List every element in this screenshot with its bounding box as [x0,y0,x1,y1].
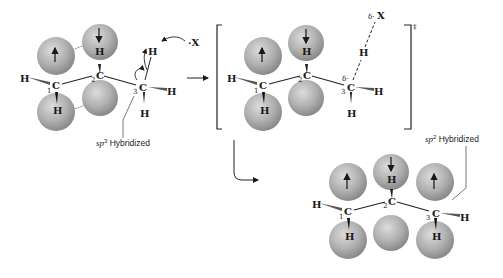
atom-h: H [374,86,383,97]
atom-c2: C [96,70,104,81]
reaction-arrow-icon [234,140,258,180]
transition-state: ‡ H C 1 H C 2 H C 3 δ· H H H δ· X [217,10,417,131]
atom-h: H [432,231,441,242]
carbon-number-1: 1 [47,87,51,95]
reactant-molecule: H C 1 H C 2 H C 3 H H H ·X sp3 Hybridize… [20,24,199,148]
atom-c3: C [432,208,440,219]
atom-c2: C [388,196,396,207]
carbon-number-1: 1 [339,213,343,221]
atom-x: X [377,10,385,21]
mechanism-diagram: H C 1 H C 2 H C 3 H H H ·X sp3 Hybridize… [0,0,503,278]
atom-h-abstracted: H [148,46,157,57]
sp2-hybridized-label: sp2 Hybridized [425,134,479,144]
carbon-number-3: 3 [426,214,430,222]
radical-x: ·X [188,37,199,48]
atom-h: H [53,105,62,116]
bracket-right [404,25,411,129]
atom-c1: C [344,206,352,217]
bracket-left [217,25,222,129]
carbon-number-1: 1 [254,87,258,95]
atom-c1: C [52,80,60,91]
carbon-number-3: 3 [341,88,345,96]
atom-c3: C [139,82,147,93]
atom-h: H [140,108,149,119]
product-molecule: sp2 Hybridized H C 1 H C 2 H C 3 H H [312,134,479,259]
atom-h: H [347,108,356,119]
carbon-number-3: 3 [133,88,137,96]
atom-h: H [260,105,269,116]
orbital-c1-top [37,37,75,75]
double-dagger-symbol: ‡ [413,23,417,31]
atom-h: H [227,73,236,84]
partial-radical-c: δ· [342,75,348,83]
atom-h: H [167,86,176,97]
atom-h: H [345,231,354,242]
atom-h: H [387,174,396,185]
atom-h: H [302,46,311,57]
carbon-number-2: 2 [91,76,95,84]
atom-c2: C [303,70,311,81]
atom-c3: C [347,82,355,93]
partial-radical-x: δ· [368,13,374,21]
atom-h: H [95,46,104,57]
carbon-number-2: 2 [383,202,387,210]
atom-c1: C [259,80,267,91]
atom-h: H [312,199,321,210]
p-orbitals [37,24,118,131]
atom-h: H [460,212,469,223]
sp3-hybridized-label: sp3 Hybridized [96,138,150,148]
atom-h: H [20,73,29,84]
curly-arrows [135,37,185,80]
atom-h-transferring: H [359,47,368,58]
p-orbitals [244,25,324,131]
carbon-number-2: 2 [298,76,302,84]
orbital-c2-bottom [82,80,118,116]
